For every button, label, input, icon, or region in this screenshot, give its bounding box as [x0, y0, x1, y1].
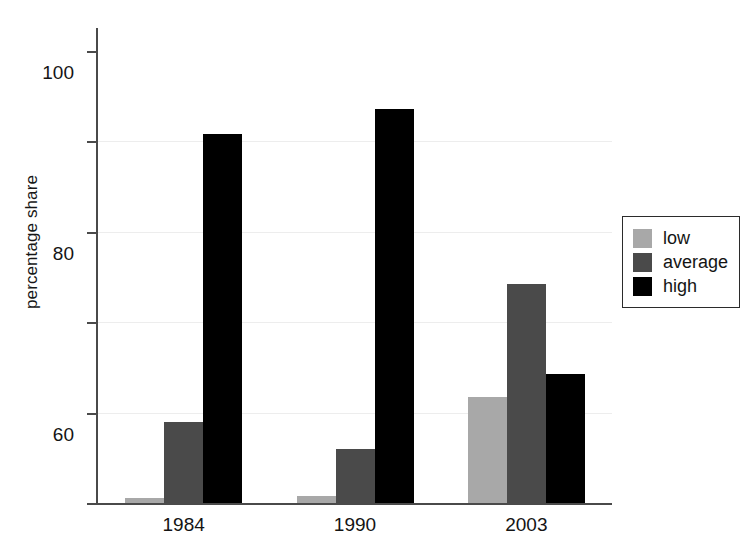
bar-1990-average [336, 449, 375, 503]
legend-swatch-average [633, 253, 652, 272]
chart-legend: lowaveragehigh [622, 216, 740, 308]
bar-2003-low [468, 397, 507, 503]
y-tick-80: 80 [87, 141, 96, 143]
y-tick-label-80: 80 [53, 243, 74, 265]
y-tick-20: 20 [87, 413, 96, 415]
legend-swatch-high [633, 277, 652, 296]
y-tick-label-60: 60 [53, 424, 74, 446]
legend-label-average: average [663, 253, 728, 271]
y-tick-40: 40 [87, 322, 96, 324]
x-tick-label-1990: 1990 [334, 514, 376, 536]
legend-label-low: low [663, 229, 690, 247]
bar-2003-high [546, 374, 585, 503]
y-axis-title: percentage share [22, 142, 42, 342]
legend-label-high: high [663, 277, 697, 295]
legend-swatch-low [633, 229, 652, 248]
bar-chart-figure: percentage share 020406080100 1984199020… [0, 0, 752, 551]
bar-1984-average [164, 422, 203, 503]
x-tick-label-1984: 1984 [163, 514, 205, 536]
bar-1990-low [297, 496, 336, 503]
bar-1984-low [125, 498, 164, 503]
bar-2003-average [507, 284, 546, 503]
y-tick-0: 0 [87, 503, 96, 505]
bar-series-group [98, 28, 612, 503]
legend-item-average: average [633, 250, 731, 274]
legend-item-low: low [633, 226, 731, 250]
y-tick-60: 60 [87, 232, 96, 234]
legend-item-high: high [633, 274, 731, 298]
bar-1984-high [203, 134, 242, 503]
x-axis-line [96, 503, 612, 505]
plot-area: 020406080100 198419902003 [96, 28, 612, 503]
bar-1990-high [375, 109, 414, 503]
y-tick-100: 100 [87, 51, 96, 53]
y-tick-label-100: 100 [42, 62, 74, 84]
x-tick-label-2003: 2003 [505, 514, 547, 536]
